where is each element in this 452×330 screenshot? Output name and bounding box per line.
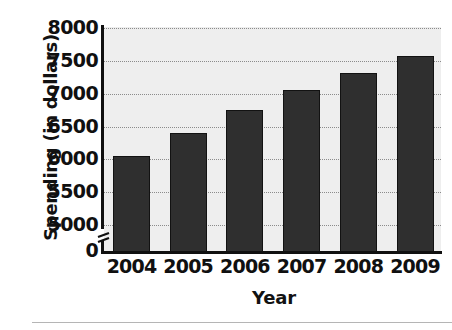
y-axis-tick-label: 8000 [30, 18, 98, 37]
bar-chart-figure: Spending (in dollars) 800075007000650060… [0, 0, 452, 330]
y-axis-tick-label: 7500 [30, 51, 98, 70]
plot-area [104, 27, 441, 252]
bar [226, 110, 263, 252]
x-axis-tick-label: 2005 [160, 256, 217, 278]
y-axis-tick-label: 7000 [30, 84, 98, 103]
bar [340, 73, 377, 252]
x-axis-tick-label: 2004 [103, 256, 160, 278]
gridline [104, 94, 441, 95]
gridline [104, 159, 441, 160]
gridline [104, 28, 441, 29]
bottom-rule-divider [32, 322, 452, 323]
y-axis-tick-label: 5500 [30, 182, 98, 201]
x-axis-tick-label: 2007 [273, 256, 330, 278]
x-axis-line [101, 251, 442, 254]
x-axis-tick-label: 2006 [216, 256, 273, 278]
y-axis-tick-label: 0 [30, 241, 98, 260]
y-axis-tick-label: 6500 [30, 117, 98, 136]
gridline [104, 127, 441, 128]
x-axis-tick-label: 2008 [330, 256, 387, 278]
y-axis-tick-label: 5000 [30, 215, 98, 234]
bar [170, 133, 207, 252]
y-axis-line [101, 25, 104, 229]
axis-break-icon [96, 228, 112, 246]
y-axis-tick-labels: 80007500700065006000550050000 [30, 0, 98, 330]
bar [113, 156, 150, 252]
bar [283, 90, 320, 252]
x-axis-tick-label: 2009 [387, 256, 444, 278]
gridline [104, 225, 441, 226]
y-axis-tick-label: 6000 [30, 149, 98, 168]
x-axis-title: Year [104, 287, 444, 308]
bar [397, 56, 434, 252]
x-axis-tick-labels: 200420052006200720082009 [104, 256, 444, 284]
gridline [104, 192, 441, 193]
gridline [104, 61, 441, 62]
